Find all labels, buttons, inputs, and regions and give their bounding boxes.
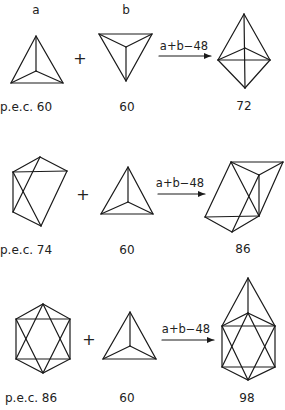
reaction-label-row3: a+b−48 <box>162 324 210 336</box>
reaction-label-row1: a+b−48 <box>160 41 208 53</box>
plus-operator-row1: + <box>73 51 86 67</box>
icosahedral-hexagon-86 <box>16 304 70 373</box>
middle-label-row3: 60 <box>119 392 134 404</box>
column-header-a: a <box>32 4 39 16</box>
capped-polyhedron-98 <box>222 278 275 380</box>
polyhedron-86 <box>205 162 283 232</box>
middle-label-row1: 60 <box>119 101 134 113</box>
result-label-row2: 86 <box>235 243 250 255</box>
tetrahedron-row2 <box>101 167 153 214</box>
tetrahedron-row3 <box>103 312 156 359</box>
tetrahedron-b-row1 <box>99 34 152 81</box>
left-label-row3: p.e.c. 86 <box>5 392 57 404</box>
plus-operator-row2: + <box>76 187 89 203</box>
middle-label-row2: 60 <box>119 244 134 256</box>
column-header-b: b <box>122 4 130 16</box>
tetrahedron-a-row1 <box>11 36 63 83</box>
reaction-label-row2: a+b−48 <box>156 178 204 190</box>
plus-operator-row3: + <box>82 332 95 348</box>
result-label-row1: 72 <box>236 100 251 112</box>
left-label-row2: p.e.c. 74 <box>0 244 52 256</box>
condensation-diagram <box>0 0 285 410</box>
result-label-row3: 98 <box>239 392 254 404</box>
trigonal-bipyramid-72 <box>218 14 270 88</box>
left-label-row1: p.e.c. 60 <box>0 101 52 113</box>
polyhedron-74 <box>13 157 67 226</box>
